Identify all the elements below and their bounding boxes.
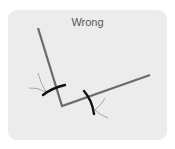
marker-stroke-left bbox=[43, 85, 65, 95]
guide-arcs-right bbox=[95, 98, 108, 118]
angle-diagram bbox=[0, 0, 175, 149]
guide-arcs-left bbox=[29, 73, 46, 92]
angle-lines bbox=[38, 28, 150, 106]
